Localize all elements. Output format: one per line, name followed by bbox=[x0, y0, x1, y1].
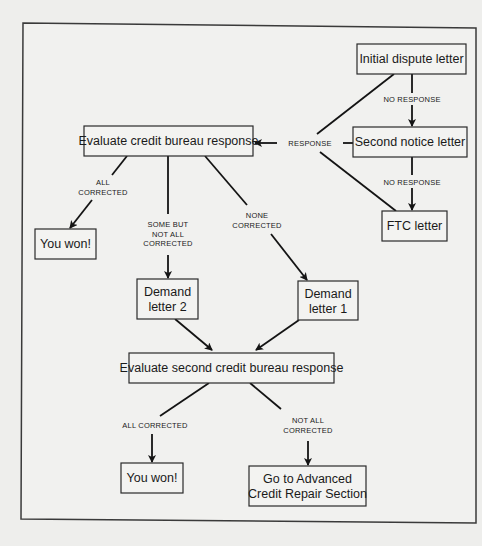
node-you-won-1: You won! bbox=[35, 229, 96, 259]
node-evaluate-credit-bureau-response: Evaluate credit bureau response bbox=[79, 126, 259, 156]
label-response: RESPONSE bbox=[288, 139, 331, 148]
node-label: Evaluate second credit bureau response bbox=[120, 361, 344, 375]
node-ftc-letter: FTC letter bbox=[382, 211, 447, 241]
node-label: You won! bbox=[40, 237, 91, 251]
node-label-line1: Go to Advanced bbox=[263, 472, 352, 486]
flowchart: NO RESPONSE NO RESPONSE RESPONSE ALL COR… bbox=[0, 0, 482, 546]
label-some-but-a: SOME BUT bbox=[148, 220, 189, 229]
label-not-all-b: CORRECTED bbox=[283, 426, 333, 435]
node-demand-letter-2: Demand letter 2 bbox=[137, 279, 198, 319]
label-all-corrected-2: ALL CORRECTED bbox=[122, 421, 188, 430]
label-none-corrected-b: CORRECTED bbox=[232, 221, 282, 230]
node-label: Second notice letter bbox=[355, 135, 466, 149]
node-label-line2: letter 1 bbox=[309, 302, 347, 316]
node-second-notice-letter: Second notice letter bbox=[353, 127, 467, 157]
node-evaluate-second-credit-bureau-response: Evaluate second credit bureau response bbox=[120, 353, 344, 383]
node-label: Evaluate credit bureau response bbox=[79, 134, 259, 148]
label-not-all-a: NOT ALL bbox=[292, 416, 324, 425]
label-none-corrected-a: NONE bbox=[246, 211, 268, 220]
label-all-corrected-1a: ALL bbox=[96, 178, 110, 187]
node-label-line1: Demand bbox=[304, 287, 351, 301]
node-initial-dispute-letter: Initial dispute letter bbox=[357, 44, 466, 74]
label-no-response-2: NO RESPONSE bbox=[383, 178, 440, 187]
label-no-response-1: NO RESPONSE bbox=[383, 95, 440, 104]
label-some-but-c: CORRECTED bbox=[143, 239, 193, 248]
node-label: Initial dispute letter bbox=[359, 52, 463, 66]
label-all-corrected-1b: CORRECTED bbox=[78, 188, 128, 197]
label-some-but-b: NOT ALL bbox=[152, 230, 184, 239]
node-label: FTC letter bbox=[387, 219, 443, 233]
node-label-line2: letter 2 bbox=[148, 300, 186, 314]
node-label-line2: Credit Repair Section bbox=[248, 487, 367, 501]
node-demand-letter-1: Demand letter 1 bbox=[298, 281, 358, 320]
node-label: You won! bbox=[127, 471, 178, 485]
node-you-won-2: You won! bbox=[121, 463, 183, 493]
node-label-line1: Demand bbox=[144, 285, 191, 299]
node-go-to-advanced-credit-repair: Go to Advanced Credit Repair Section bbox=[248, 466, 367, 506]
